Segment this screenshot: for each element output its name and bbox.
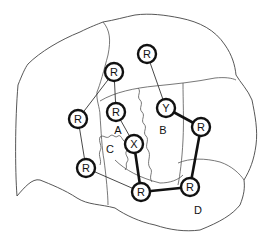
node-r-right: R: [192, 118, 210, 136]
region-label-a: A: [114, 124, 122, 136]
node-x: X: [125, 135, 143, 153]
svg-text:R: R: [74, 113, 82, 125]
border-horizontal-upper: [100, 78, 236, 101]
wavy-border-c-left: [99, 137, 101, 165]
wavy-border-a-b: [138, 88, 152, 182]
edges: [78, 54, 201, 192]
svg-text:R: R: [82, 162, 90, 174]
node-r-upper-left: R: [105, 63, 123, 81]
node-r-top-center: R: [138, 45, 156, 63]
svg-text:R: R: [186, 181, 194, 193]
svg-text:R: R: [137, 186, 145, 198]
svg-text:R: R: [110, 66, 118, 78]
svg-text:R: R: [143, 48, 151, 60]
region-label-c: C: [106, 143, 114, 155]
node-r-left: R: [69, 110, 87, 128]
node-r-bottom-right: R: [181, 178, 199, 196]
region-label-d: D: [194, 204, 202, 216]
node-r-bottom-left: R: [77, 159, 95, 177]
border-region-b-right: [178, 83, 183, 185]
svg-text:R: R: [112, 106, 120, 118]
node-r-bottom-center: R: [132, 183, 150, 201]
region-graph-diagram: R R R R Y R X R R R A B C D: [0, 0, 276, 246]
border-region-d-top: [178, 159, 244, 180]
wavy-border-c: [100, 135, 128, 170]
svg-text:R: R: [197, 121, 205, 133]
svg-text:X: X: [130, 138, 138, 150]
svg-text:Y: Y: [162, 102, 170, 114]
node-r-above-a: R: [107, 103, 125, 121]
region-label-b: B: [159, 124, 166, 136]
node-y: Y: [157, 99, 175, 117]
